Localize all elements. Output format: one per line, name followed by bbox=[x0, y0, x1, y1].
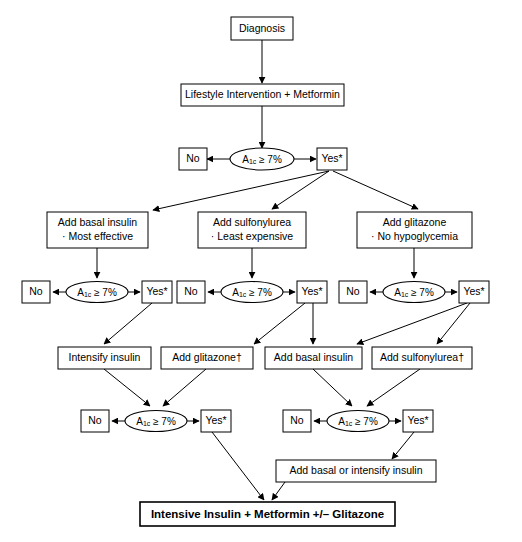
node-final-outcome[interactable]: Intensive Insulin + Metformin +/– Glitaz… bbox=[140, 502, 395, 526]
node-yes-2c[interactable]: Yes* bbox=[459, 281, 489, 303]
node-add-glitazone-line1: Add glitazone bbox=[383, 216, 447, 228]
node-yes-2b[interactable]: Yes* bbox=[297, 281, 327, 303]
node-add-basal-or-intensify-label: Add basal or intensify insulin bbox=[289, 464, 422, 476]
node-no-1-label: No bbox=[186, 152, 200, 164]
node-yes-2b-label: Yes* bbox=[301, 285, 322, 297]
node-add-basal-insulin[interactable]: Add basal insulin · Most effective bbox=[47, 212, 148, 248]
node-yes-2a-label: Yes* bbox=[146, 285, 167, 297]
node-add-sulfonylurea-line2: · Least expensive bbox=[211, 230, 293, 242]
node-no-2a[interactable]: No bbox=[22, 281, 50, 303]
edge-yes1-basal bbox=[153, 171, 329, 210]
node-decision-2c[interactable]: A1c ≥ 7% bbox=[383, 282, 445, 303]
node-final-outcome-label: Intensive Insulin + Metformin +/– Glitaz… bbox=[151, 508, 384, 520]
edge-yes2a-intensify bbox=[104, 303, 152, 344]
edge-yes2b-glitazone bbox=[254, 303, 305, 344]
node-yes-1-label: Yes* bbox=[321, 152, 342, 164]
node-no-2c-label: No bbox=[346, 285, 360, 297]
node-add-sulfonylurea-line1: Add sulfonylurea bbox=[213, 216, 291, 228]
node-add-sulfonylurea-dagger[interactable]: Add sulfonylurea† bbox=[372, 347, 472, 369]
node-decision-3b[interactable]: A1c ≥ 7% bbox=[327, 411, 389, 432]
node-no-2a-label: No bbox=[29, 285, 43, 297]
node-add-basal-insulin-2[interactable]: Add basal insulin bbox=[265, 347, 362, 369]
node-diagnosis-label: Diagnosis bbox=[239, 22, 285, 34]
node-yes-3b[interactable]: Yes* bbox=[403, 410, 433, 432]
edge-sulfonylurea2-decision3b bbox=[367, 369, 420, 406]
node-yes-2c-label: Yes* bbox=[463, 285, 484, 297]
node-lifestyle-label: Lifestyle Intervention + Metformin bbox=[185, 88, 340, 100]
edge-glitazone2-decision3a bbox=[163, 369, 206, 406]
edge-yes3b-addbasal bbox=[392, 432, 414, 459]
node-no-3a-label: No bbox=[88, 414, 102, 426]
node-no-3a[interactable]: No bbox=[81, 410, 109, 432]
flowchart-diagram: Diagnosis Lifestyle Intervention + Metfo… bbox=[0, 0, 522, 542]
node-intensify-insulin-label: Intensify insulin bbox=[69, 351, 141, 363]
edge-yes2c-sulfonylurea2 bbox=[437, 303, 470, 344]
node-yes-3a[interactable]: Yes* bbox=[201, 410, 231, 432]
node-decision-2c-label: A1c ≥ 7% bbox=[394, 286, 434, 297]
node-add-sulfonylurea-dagger-label: Add sulfonylurea† bbox=[380, 351, 464, 363]
node-no-3b-label: No bbox=[290, 414, 304, 426]
node-decision-3a[interactable]: A1c ≥ 7% bbox=[125, 411, 187, 432]
edge-yes1-sulfonylurea bbox=[272, 171, 329, 209]
node-no-2b-label: No bbox=[184, 285, 198, 297]
node-add-basal-insulin-2-label: Add basal insulin bbox=[274, 351, 354, 363]
node-decision-1[interactable]: A1c ≥ 7% bbox=[230, 148, 294, 170]
edge-intensify-decision3a bbox=[104, 369, 150, 406]
edge-addbasal-final bbox=[272, 482, 285, 500]
node-add-glitazone-dagger-label: Add glitazone† bbox=[172, 351, 242, 363]
node-no-1[interactable]: No bbox=[179, 148, 207, 170]
node-add-basal-insulin-line1: Add basal insulin bbox=[58, 216, 138, 228]
node-yes-1[interactable]: Yes* bbox=[317, 148, 347, 170]
node-decision-3a-label: A1c ≥ 7% bbox=[136, 415, 176, 426]
node-yes-2a[interactable]: Yes* bbox=[142, 281, 172, 303]
node-diagnosis[interactable]: Diagnosis bbox=[231, 17, 293, 40]
node-yes-3a-label: Yes* bbox=[205, 414, 226, 426]
node-intensify-insulin[interactable]: Intensify insulin bbox=[58, 347, 151, 369]
edge-basal2-decision3b bbox=[313, 369, 352, 406]
node-add-basal-insulin-line2: · Most effective bbox=[62, 230, 133, 242]
node-add-sulfonylurea[interactable]: Add sulfonylurea · Least expensive bbox=[198, 212, 306, 248]
node-add-basal-or-intensify[interactable]: Add basal or intensify insulin bbox=[276, 460, 436, 482]
node-decision-2b-label: A1c ≥ 7% bbox=[232, 286, 272, 297]
node-decision-2a[interactable]: A1c ≥ 7% bbox=[66, 282, 128, 303]
node-add-glitazone-line2: · No hypoglycemia bbox=[371, 230, 458, 242]
node-add-glitazone[interactable]: Add glitazone · No hypoglycemia bbox=[357, 212, 472, 248]
node-yes-3b-label: Yes* bbox=[407, 414, 428, 426]
node-decision-1-label: A1c ≥ 7% bbox=[242, 153, 282, 164]
edge-yes2c-basal2 bbox=[357, 303, 467, 344]
node-no-2c[interactable]: No bbox=[339, 281, 367, 303]
node-lifestyle[interactable]: Lifestyle Intervention + Metformin bbox=[181, 84, 344, 106]
node-decision-3b-label: A1c ≥ 7% bbox=[338, 415, 378, 426]
node-decision-2a-label: A1c ≥ 7% bbox=[77, 286, 117, 297]
node-add-glitazone-dagger[interactable]: Add glitazone† bbox=[161, 347, 253, 369]
node-no-3b[interactable]: No bbox=[283, 410, 311, 432]
node-no-2b[interactable]: No bbox=[177, 281, 205, 303]
edge-yes1-glitazone bbox=[333, 171, 418, 209]
node-decision-2b[interactable]: A1c ≥ 7% bbox=[221, 282, 283, 303]
edge-yes3a-final bbox=[212, 432, 264, 500]
